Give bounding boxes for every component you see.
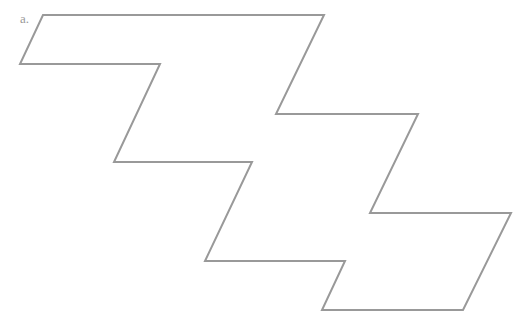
polygon-outline [20,15,511,310]
figure-canvas: a. [0,0,523,325]
zigzag-shape [0,0,523,325]
